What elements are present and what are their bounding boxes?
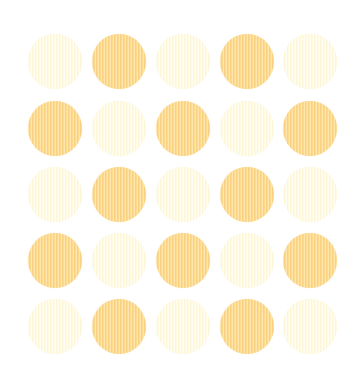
- dot-cream-r2-c2: [92, 101, 146, 156]
- dot-cream-r3-c3: [156, 167, 210, 222]
- dot-cream-r5-c5: [283, 299, 337, 354]
- dot-cream-r5-c1: [28, 299, 82, 354]
- dot-cream-r3-c1: [28, 167, 82, 222]
- dot-orange-r5-c4: [220, 299, 274, 354]
- dot-orange-r2-c1: [28, 101, 82, 156]
- dot-cream-r1-c5: [283, 34, 337, 89]
- dot-cream-r4-c4: [220, 233, 274, 288]
- dot-cream-r3-c5: [283, 167, 337, 222]
- dot-orange-r1-c4: [220, 34, 274, 89]
- dot-orange-r4-c5: [283, 233, 337, 288]
- dot-orange-r1-c2: [92, 34, 146, 89]
- dot-orange-r4-c3: [156, 233, 210, 288]
- dot-cream-r4-c2: [92, 233, 146, 288]
- dot-cream-r2-c4: [220, 101, 274, 156]
- dot-orange-r4-c1: [28, 233, 82, 288]
- dot-cream-r1-c1: [28, 34, 82, 89]
- dot-orange-r3-c4: [220, 167, 274, 222]
- polka-dot-pattern: [0, 0, 356, 384]
- dot-orange-r2-c5: [283, 101, 337, 156]
- dot-cream-r1-c3: [156, 34, 210, 89]
- dot-cream-r5-c3: [156, 299, 210, 354]
- dot-orange-r5-c2: [92, 299, 146, 354]
- dot-orange-r2-c3: [156, 101, 210, 156]
- dot-orange-r3-c2: [92, 167, 146, 222]
